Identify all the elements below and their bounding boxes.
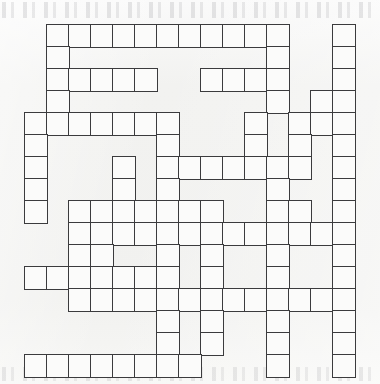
crossword-cell[interactable] — [24, 112, 48, 136]
crossword-cell[interactable] — [332, 266, 356, 290]
crossword-cell[interactable] — [200, 222, 224, 246]
crossword-cell[interactable] — [178, 288, 202, 312]
crossword-cell[interactable] — [68, 288, 92, 312]
crossword-cell[interactable] — [266, 178, 290, 202]
crossword-cell[interactable] — [46, 68, 70, 92]
crossword-cell[interactable] — [112, 266, 136, 290]
crossword-cell[interactable] — [134, 266, 158, 290]
crossword-cell[interactable] — [46, 46, 70, 70]
crossword-cell[interactable] — [266, 90, 290, 114]
crossword-cell[interactable] — [200, 332, 224, 356]
crossword-cell[interactable] — [288, 288, 312, 312]
crossword-cell[interactable] — [310, 112, 334, 136]
crossword-cell[interactable] — [332, 310, 356, 334]
crossword-cell[interactable] — [156, 134, 180, 158]
crossword-cell[interactable] — [200, 266, 224, 290]
crossword-cell[interactable] — [266, 310, 290, 334]
crossword-cell[interactable] — [112, 156, 136, 180]
crossword-cell[interactable] — [222, 24, 246, 48]
crossword-cell[interactable] — [112, 354, 136, 378]
crossword-cell[interactable] — [90, 200, 114, 224]
crossword-cell[interactable] — [112, 200, 136, 224]
crossword-cell[interactable] — [134, 68, 158, 92]
crossword-cell[interactable] — [46, 24, 70, 48]
crossword-cell[interactable] — [68, 266, 92, 290]
crossword-cell[interactable] — [90, 112, 114, 136]
crossword-cell[interactable] — [134, 24, 158, 48]
crossword-cell[interactable] — [134, 288, 158, 312]
crossword-cell[interactable] — [112, 24, 136, 48]
crossword-cell[interactable] — [200, 24, 224, 48]
crossword-cell[interactable] — [310, 222, 334, 246]
crossword-cell[interactable] — [178, 222, 202, 246]
crossword-cell[interactable] — [266, 200, 290, 224]
crossword-cell[interactable] — [156, 112, 180, 136]
crossword-cell[interactable] — [156, 244, 180, 268]
crossword-cell[interactable] — [68, 354, 92, 378]
crossword-cell[interactable] — [46, 354, 70, 378]
crossword-cell[interactable] — [266, 68, 290, 92]
crossword-cell[interactable] — [24, 156, 48, 180]
crossword-grid[interactable] — [0, 0, 380, 384]
crossword-cell[interactable] — [46, 266, 70, 290]
crossword-cell[interactable] — [332, 244, 356, 268]
crossword-cell[interactable] — [112, 68, 136, 92]
crossword-cell[interactable] — [332, 46, 356, 70]
crossword-cell[interactable] — [332, 200, 356, 224]
crossword-cell[interactable] — [134, 354, 158, 378]
crossword-cell[interactable] — [222, 156, 246, 180]
crossword-cell[interactable] — [244, 112, 268, 136]
crossword-cell[interactable] — [90, 266, 114, 290]
crossword-cell[interactable] — [266, 46, 290, 70]
crossword-cell[interactable] — [266, 222, 290, 246]
crossword-cell[interactable] — [68, 200, 92, 224]
crossword-cell[interactable] — [266, 24, 290, 48]
crossword-cell[interactable] — [24, 266, 48, 290]
crossword-cell[interactable] — [332, 68, 356, 92]
crossword-cell[interactable] — [90, 68, 114, 92]
crossword-cell[interactable] — [68, 24, 92, 48]
crossword-cell[interactable] — [332, 354, 356, 378]
crossword-cell[interactable] — [178, 156, 202, 180]
crossword-cell[interactable] — [266, 266, 290, 290]
crossword-cell[interactable] — [332, 178, 356, 202]
crossword-cell[interactable] — [156, 24, 180, 48]
crossword-cell[interactable] — [266, 288, 290, 312]
crossword-cell[interactable] — [266, 156, 290, 180]
crossword-cell[interactable] — [24, 134, 48, 158]
crossword-cell[interactable] — [156, 222, 180, 246]
crossword-cell[interactable] — [112, 178, 136, 202]
crossword-cell[interactable] — [68, 244, 92, 268]
crossword-cell[interactable] — [156, 156, 180, 180]
crossword-cell[interactable] — [244, 134, 268, 158]
crossword-cell[interactable] — [90, 244, 114, 268]
crossword-cell[interactable] — [68, 222, 92, 246]
crossword-cell[interactable] — [68, 112, 92, 136]
crossword-cell[interactable] — [156, 354, 180, 378]
crossword-cell[interactable] — [200, 200, 224, 224]
crossword-cell[interactable] — [90, 354, 114, 378]
crossword-cell[interactable] — [222, 68, 246, 92]
crossword-cell[interactable] — [156, 200, 180, 224]
crossword-cell[interactable] — [90, 222, 114, 246]
crossword-cell[interactable] — [266, 354, 290, 378]
crossword-cell[interactable] — [112, 288, 136, 312]
crossword-cell[interactable] — [332, 24, 356, 48]
crossword-cell[interactable] — [178, 200, 202, 224]
crossword-cell[interactable] — [332, 222, 356, 246]
crossword-cell[interactable] — [200, 310, 224, 334]
crossword-cell[interactable] — [332, 288, 356, 312]
crossword-cell[interactable] — [156, 178, 180, 202]
crossword-cell[interactable] — [266, 244, 290, 268]
crossword-cell[interactable] — [156, 332, 180, 356]
crossword-cell[interactable] — [288, 200, 312, 224]
crossword-cell[interactable] — [178, 354, 202, 378]
crossword-cell[interactable] — [244, 68, 268, 92]
crossword-cell[interactable] — [222, 288, 246, 312]
crossword-cell[interactable] — [288, 222, 312, 246]
crossword-cell[interactable] — [266, 332, 290, 356]
crossword-cell[interactable] — [244, 24, 268, 48]
crossword-cell[interactable] — [24, 200, 48, 224]
crossword-cell[interactable] — [112, 222, 136, 246]
crossword-cell[interactable] — [24, 178, 48, 202]
